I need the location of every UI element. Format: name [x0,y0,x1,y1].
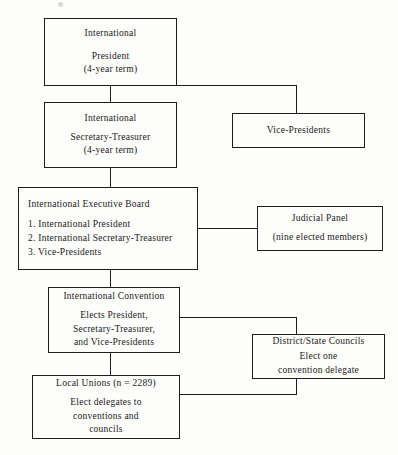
node-title: Local Unions (n = 2289) [56,377,156,391]
node-title: Vice-Presidents [267,124,330,138]
node-line-2: Secretary-Treasurer [71,131,151,145]
node-line-3: (4-year term) [84,63,138,77]
connector-down-to-councils [296,317,297,334]
connector-convention-to-councils [180,317,297,318]
node-district-state-councils[interactable]: District/State Councils Elect one conven… [252,334,385,379]
node-title: International Convention [63,290,164,304]
board-member-3: 3. Vice-Presidents [28,245,101,259]
node-vice-presidents[interactable]: Vice-Presidents [232,113,365,148]
node-international-executive-board[interactable]: International Executive Board 1. Interna… [18,187,198,270]
node-line-2: Elects President, [80,309,148,323]
scan-artifact [58,2,63,7]
node-title: International Executive Board [28,198,150,212]
node-line-3: (4-year term) [84,144,138,158]
node-title: International [85,27,137,41]
connector-councils-to-local-unions [180,394,297,395]
node-line-2: Elect one [300,350,338,364]
node-judicial-panel[interactable]: Judicial Panel (nine elected members) [257,206,383,251]
connector-board-to-convention [110,269,111,287]
node-line-3: Secretary-Treasurer, [73,323,155,337]
node-line-4: councils [89,423,123,437]
connector-councils-down [296,378,297,395]
node-title: District/State Councils [272,335,364,349]
node-title: Judicial Panel [292,212,349,226]
org-chart-figure: International President (4-year term) In… [0,0,398,455]
node-line-2: Elect delegates to [70,396,142,410]
node-local-unions[interactable]: Local Unions (n = 2289) Elect delegates … [32,375,180,439]
board-member-1: 1. International President [28,217,130,231]
node-international-secretary-treasurer[interactable]: International Secretary-Treasurer (4-yea… [44,102,177,168]
connector-down-to-vicepresidents [296,85,297,113]
node-title: International [85,112,137,126]
node-international-president[interactable]: International President (4-year term) [44,18,177,86]
node-line-3: convention delegate [278,364,359,378]
node-line-4: and Vice-Presidents [74,336,154,350]
connector-board-to-judicial-panel [198,228,257,229]
node-international-convention[interactable]: International Convention Elects Presiden… [48,287,180,353]
connector-secretary-to-board [110,167,111,187]
node-line-3: conventions and [73,410,139,424]
node-line-2: President [92,50,130,64]
board-member-2: 2. International Secretary-Treasurer [28,231,173,245]
node-line-2: (nine elected members) [273,231,368,245]
connector-convention-to-local-unions [110,352,111,375]
connector-president-to-junction [110,85,111,102]
